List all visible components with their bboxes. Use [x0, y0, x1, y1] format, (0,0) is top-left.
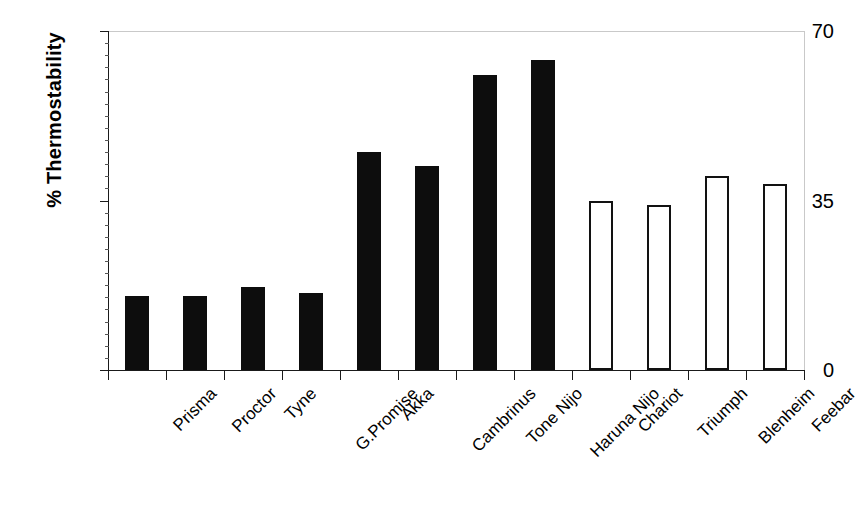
- x-axis-label-tyne: Tyne: [281, 384, 321, 424]
- x-axis-label-prisma: Prisma: [170, 384, 222, 436]
- x-axis-label-proctor: Proctor: [228, 384, 281, 437]
- x-axis-label-blenheim: Blenheim: [755, 384, 819, 448]
- x-axis-label-triumph: Triumph: [694, 384, 752, 442]
- x-axis-label-cambrinus: Cambrinus: [468, 384, 540, 456]
- x-axis-label-feebar: Feebar: [808, 384, 859, 436]
